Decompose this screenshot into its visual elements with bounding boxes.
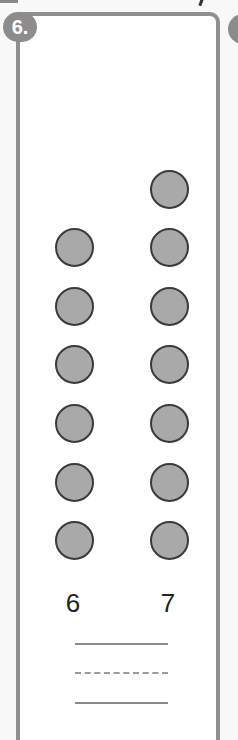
exercise-number-badge: 6. — [3, 12, 37, 42]
counting-dot — [55, 404, 94, 443]
worksheet-page: 6. 6 7 — [0, 0, 238, 740]
next-exercise-badge-fragment — [228, 14, 238, 44]
counting-dot — [55, 345, 94, 384]
counting-dot — [150, 521, 189, 560]
answer-line-mid[interactable] — [75, 672, 168, 674]
answer-line-bottom[interactable] — [75, 702, 168, 704]
counting-dot — [55, 287, 94, 326]
top-border-fragment — [0, 0, 18, 3]
counting-dot — [150, 170, 189, 209]
counting-dot — [150, 463, 189, 502]
exercise-card — [16, 12, 220, 740]
counting-dot — [150, 404, 189, 443]
count-label-right: 7 — [148, 588, 188, 619]
counting-dot — [150, 287, 189, 326]
counting-dot — [55, 463, 94, 502]
counting-dot — [55, 521, 94, 560]
pen-mark — [198, 0, 204, 6]
counting-dot — [55, 228, 94, 267]
counting-dot — [150, 228, 189, 267]
answer-line-top[interactable] — [75, 643, 168, 645]
count-label-left: 6 — [53, 588, 93, 619]
counting-dot — [150, 345, 189, 384]
